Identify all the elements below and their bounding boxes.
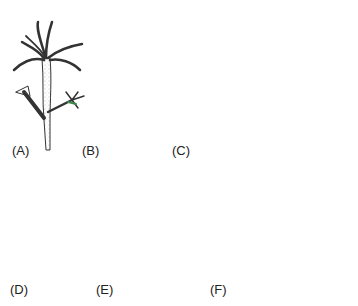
panel-label-f: (F): [210, 283, 227, 296]
panel-label-b: (B): [82, 144, 99, 157]
panel-label-a: (A): [12, 144, 29, 157]
panel-label-d: (D): [10, 283, 28, 296]
panel-label-e: (E): [96, 283, 113, 296]
panel-a-polyp-drawing: [14, 22, 84, 150]
panel-label-c: (C): [172, 144, 190, 157]
